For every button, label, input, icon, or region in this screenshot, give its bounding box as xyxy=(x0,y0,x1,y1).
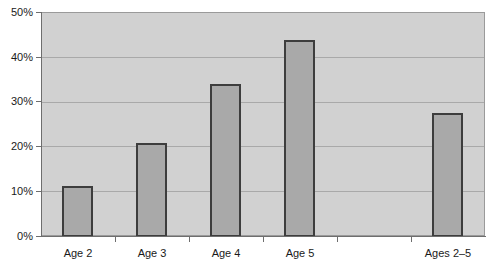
x-tick-label-age-4: Age 4 xyxy=(212,247,241,259)
x-tick-label-age-2: Age 2 xyxy=(64,247,93,259)
bar-age-2[interactable] xyxy=(62,186,93,237)
bar-age-5[interactable] xyxy=(284,40,315,237)
bar-age-4[interactable] xyxy=(210,84,241,237)
bar-chart: 50% 40% 30% 20% 10% 0% Age 2 Age 3 Age 4… xyxy=(0,0,500,268)
y-tick-label-0: 0% xyxy=(0,231,33,242)
gridline-10 xyxy=(42,191,484,192)
bar-age-3[interactable] xyxy=(136,143,167,237)
y-tick-label-50: 50% xyxy=(0,7,33,18)
gridline-20 xyxy=(42,146,484,147)
y-tick-mark-0 xyxy=(36,236,41,237)
y-tick-label-40: 40% xyxy=(0,52,33,63)
x-tick-label-age-3: Age 3 xyxy=(138,247,167,259)
x-tick-mark-2 xyxy=(189,237,190,242)
x-tick-mark-1 xyxy=(115,237,116,242)
gridline-30 xyxy=(42,102,484,103)
gridline-40 xyxy=(42,57,484,58)
x-tick-label-ages-2-5: Ages 2–5 xyxy=(425,247,471,259)
y-tick-mark-40 xyxy=(36,57,41,58)
y-tick-label-10: 10% xyxy=(0,186,33,197)
x-tick-mark-3 xyxy=(263,237,264,242)
y-tick-label-20: 20% xyxy=(0,141,33,152)
bar-ages-2-5[interactable] xyxy=(432,113,463,237)
plot-area xyxy=(41,12,485,236)
y-tick-mark-50 xyxy=(36,12,41,13)
x-tick-label-age-5: Age 5 xyxy=(286,247,315,259)
x-tick-mark-4 xyxy=(337,237,338,242)
y-tick-mark-30 xyxy=(36,101,41,102)
y-tick-mark-20 xyxy=(36,146,41,147)
y-axis-line xyxy=(41,12,42,237)
y-tick-label-30: 30% xyxy=(0,96,33,107)
x-tick-mark-5 xyxy=(411,237,412,242)
y-tick-mark-10 xyxy=(36,191,41,192)
